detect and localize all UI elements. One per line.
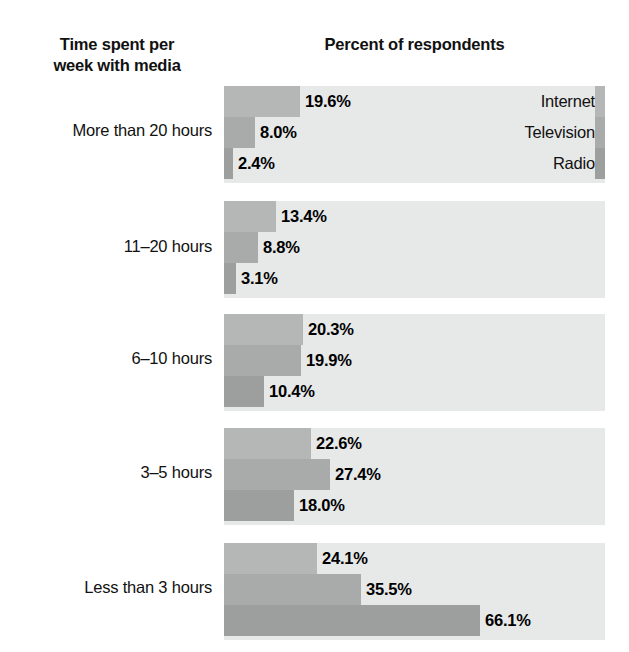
bar-value-label: 3.1%: [236, 263, 278, 294]
bar-internet: [224, 428, 311, 459]
chart-title: Percent of respondents: [224, 34, 605, 55]
legend-swatch-radio: [595, 148, 605, 179]
category-label: More than 20 hours: [73, 120, 213, 140]
legend-swatch-television: [595, 117, 605, 148]
bar-row: 27.4%: [224, 459, 605, 490]
bar-row: 13.4%: [224, 201, 605, 232]
bar-row: 18.0%: [224, 490, 605, 521]
bar-internet: [224, 86, 300, 117]
category-label: 3–5 hours: [140, 462, 212, 482]
legend-swatch-internet: [595, 86, 605, 117]
bar-value-label: 66.1%: [480, 605, 531, 636]
bar-value-label: 24.1%: [317, 543, 368, 574]
axis-title-left: Time spent per week with media: [22, 34, 212, 76]
bar-radio: [224, 490, 294, 521]
bar-row: 20.3%: [224, 314, 605, 345]
bar-value-label: 18.0%: [294, 490, 345, 521]
category-label: Less than 3 hours: [84, 577, 212, 597]
category-label: 6–10 hours: [131, 348, 212, 368]
bar-group: 13.4%8.8%3.1%: [224, 201, 605, 298]
bar-row: 10.4%: [224, 376, 605, 407]
bar-value-label: 19.9%: [301, 345, 352, 376]
bar-group: 20.3%19.9%10.4%: [224, 314, 605, 411]
bar-radio: [224, 605, 480, 636]
bar-value-label: 35.5%: [361, 574, 412, 605]
bar-television: [224, 459, 330, 490]
bar-television: [224, 117, 255, 148]
bar-internet: [224, 543, 317, 574]
legend-label-internet: Internet: [541, 86, 595, 117]
bar-internet: [224, 201, 276, 232]
bar-value-label: 13.4%: [276, 201, 327, 232]
bar-television: [224, 345, 301, 376]
bar-television: [224, 232, 258, 263]
bar-value-label: 2.4%: [233, 148, 275, 179]
bar-radio: [224, 148, 233, 179]
grouped-bar-chart: Time spent per week with media Percent o…: [0, 0, 629, 652]
bar-row: 2.4%Radio: [224, 148, 605, 179]
bar-row: 3.1%: [224, 263, 605, 294]
bar-value-label: 10.4%: [264, 376, 315, 407]
bar-radio: [224, 376, 264, 407]
bar-row: 22.6%: [224, 428, 605, 459]
legend-label-radio: Radio: [553, 148, 595, 179]
bar-row: 8.0%Television: [224, 117, 605, 148]
category-label: 11–20 hours: [124, 236, 212, 256]
bar-row: 35.5%: [224, 574, 605, 605]
bar-internet: [224, 314, 303, 345]
bar-value-label: 20.3%: [303, 314, 354, 345]
bar-row: 19.6%Internet: [224, 86, 605, 117]
bar-value-label: 8.8%: [258, 232, 300, 263]
bar-row: 8.8%: [224, 232, 605, 263]
bar-value-label: 19.6%: [300, 86, 351, 117]
axis-title-left-line1: Time spent per: [22, 34, 212, 55]
bar-value-label: 27.4%: [330, 459, 381, 490]
bar-group: 22.6%27.4%18.0%: [224, 428, 605, 525]
bar-group: 19.6%Internet8.0%Television2.4%Radio: [224, 86, 605, 183]
bar-row: 24.1%: [224, 543, 605, 574]
axis-title-left-line2: week with media: [22, 55, 212, 76]
bar-value-label: 22.6%: [311, 428, 362, 459]
bar-radio: [224, 263, 236, 294]
bar-television: [224, 574, 361, 605]
bar-row: 66.1%: [224, 605, 605, 636]
bar-value-label: 8.0%: [255, 117, 297, 148]
bar-group: 24.1%35.5%66.1%: [224, 543, 605, 640]
legend-label-television: Television: [525, 117, 595, 148]
bar-row: 19.9%: [224, 345, 605, 376]
